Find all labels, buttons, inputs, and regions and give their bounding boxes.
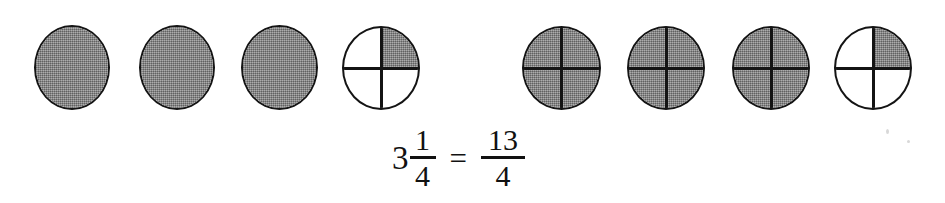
circle-6 bbox=[627, 26, 705, 110]
fraction-diagram-canvas: 3 1 4 = 13 4 bbox=[0, 0, 945, 203]
circle-8-horizontal-divider bbox=[834, 67, 912, 70]
circle-8 bbox=[834, 26, 912, 110]
circle-6-horizontal-divider bbox=[627, 67, 705, 70]
circle-8-shaded-quadrant-top-right bbox=[873, 28, 910, 68]
circle-4 bbox=[342, 26, 420, 110]
circle-5-horizontal-divider bbox=[522, 67, 601, 70]
improper-fraction-denominator: 4 bbox=[492, 159, 513, 191]
circle-1 bbox=[34, 25, 110, 110]
circle-3 bbox=[241, 25, 318, 110]
circle-5 bbox=[522, 26, 601, 110]
circle-3-shading bbox=[243, 27, 316, 108]
improper-fraction-numerator: 13 bbox=[484, 125, 522, 156]
circle-4-horizontal-divider bbox=[342, 67, 420, 70]
circle-7 bbox=[732, 26, 810, 110]
improper-fraction: 13 4 bbox=[481, 125, 525, 191]
circle-2-shading bbox=[141, 27, 213, 108]
circle-1-shading bbox=[36, 27, 108, 108]
equation: 3 1 4 = 13 4 bbox=[392, 122, 525, 194]
scan-speck bbox=[886, 129, 889, 134]
mixed-number-whole-part: 3 bbox=[392, 142, 410, 175]
equals-sign: = bbox=[436, 143, 481, 174]
circle-2 bbox=[139, 25, 215, 110]
circle-4-shaded-quadrant-top-right bbox=[381, 28, 418, 68]
mixed-number-denominator: 4 bbox=[412, 159, 433, 191]
scan-speck bbox=[907, 140, 910, 143]
mixed-number-fraction: 1 4 bbox=[410, 125, 436, 191]
mixed-number-numerator: 1 bbox=[412, 125, 433, 156]
circle-7-horizontal-divider bbox=[732, 67, 810, 70]
